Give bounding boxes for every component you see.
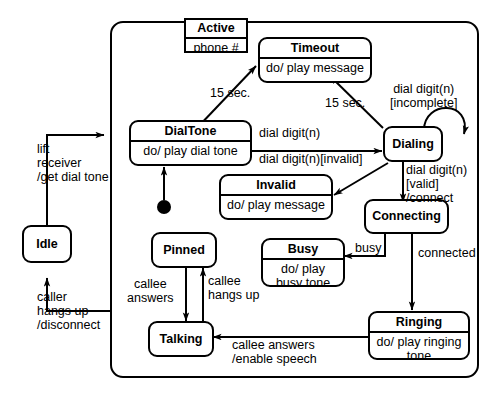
state-dialtone[interactable]: DialTone do/ play dial tone xyxy=(129,120,252,166)
state-invalid[interactable]: Invalid do/ play message xyxy=(219,174,333,220)
label-dial-digit-valid: dial digit(n) [valid] /connect xyxy=(406,163,467,205)
state-talking-name: Talking xyxy=(153,330,210,348)
state-pinned[interactable]: Pinned xyxy=(151,232,217,268)
label-dial-digit-invalid: dial digit(n)[invalid] xyxy=(259,152,363,166)
label-dial-digit: dial digit(n) xyxy=(259,126,320,140)
label-timeout-from-dialing: 15 sec. xyxy=(325,96,365,110)
edge-dialing-to-invalid xyxy=(334,163,388,195)
state-pinned-name: Pinned xyxy=(156,241,212,259)
state-dialtone-name: DialTone xyxy=(131,122,250,140)
state-dialing-name: Dialing xyxy=(385,135,441,153)
composite-state-name: Active xyxy=(186,20,246,37)
label-dial-digit-incomplete: dial digit(n) [incomplete] xyxy=(390,82,457,110)
state-timeout-activity: do/ play message xyxy=(260,59,370,78)
state-dialing[interactable]: Dialing xyxy=(383,126,443,162)
initial-state-dot xyxy=(157,200,171,214)
state-ringing[interactable]: Ringing do/ play ringing tone xyxy=(368,311,470,360)
label-busy: busy xyxy=(355,241,381,255)
label-caller-hangs-up: caller hangs up /disconnect xyxy=(37,290,100,332)
label-connected: connected xyxy=(418,246,476,260)
label-lift-receiver: lift receiver /get dial tone xyxy=(37,142,109,184)
label-callee-answers-enable-speech: callee answers /enable speech xyxy=(232,338,317,366)
label-timeout-from-dialtone: 15 sec. xyxy=(210,86,250,100)
state-invalid-activity: do/ play message xyxy=(221,196,331,215)
state-busy[interactable]: Busy do/ play busy tone xyxy=(261,238,345,287)
state-timeout-name: Timeout xyxy=(260,39,370,57)
state-connecting-name: Connecting xyxy=(365,207,448,225)
state-talking[interactable]: Talking xyxy=(148,321,214,357)
label-callee-answers: callee answers xyxy=(127,277,174,305)
composite-state-attribute: phone # xyxy=(186,39,246,53)
state-idle[interactable]: Idle xyxy=(22,225,72,263)
state-ringing-name: Ringing xyxy=(370,313,468,331)
state-invalid-name: Invalid xyxy=(221,176,331,194)
label-callee-hangs-up: callee hangs up xyxy=(208,274,259,302)
state-ringing-activity: do/ play ringing tone xyxy=(370,333,468,360)
composite-state-header: Active phone # xyxy=(184,18,248,53)
state-timeout[interactable]: Timeout do/ play message xyxy=(258,37,372,83)
state-diagram-canvas: Active phone # Idle DialTone do/ play di… xyxy=(0,0,497,396)
state-dialtone-activity: do/ play dial tone xyxy=(131,142,250,161)
state-busy-name: Busy xyxy=(263,240,343,258)
state-idle-name: Idle xyxy=(29,235,65,253)
state-busy-activity: do/ play busy tone xyxy=(263,260,343,287)
